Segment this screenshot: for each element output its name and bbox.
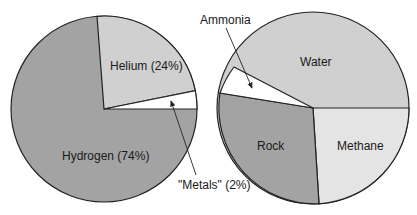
label-ammonia: Ammonia xyxy=(200,13,251,27)
left-pie: Helium (24%) Hydrogen (74%) "Metals" (2%… xyxy=(11,16,251,202)
label-metals: "Metals" (2%) xyxy=(178,178,251,192)
label-water: Water xyxy=(300,55,332,69)
label-rock: Rock xyxy=(257,139,285,153)
right-pie: Water Methane Rock Ammonia xyxy=(200,12,409,204)
label-helium: Helium (24%) xyxy=(110,59,183,73)
pie-charts: Helium (24%) Hydrogen (74%) "Metals" (2%… xyxy=(0,0,417,215)
label-methane: Methane xyxy=(337,139,384,153)
slice-methane xyxy=(313,108,409,204)
label-hydrogen: Hydrogen (74%) xyxy=(62,149,149,163)
